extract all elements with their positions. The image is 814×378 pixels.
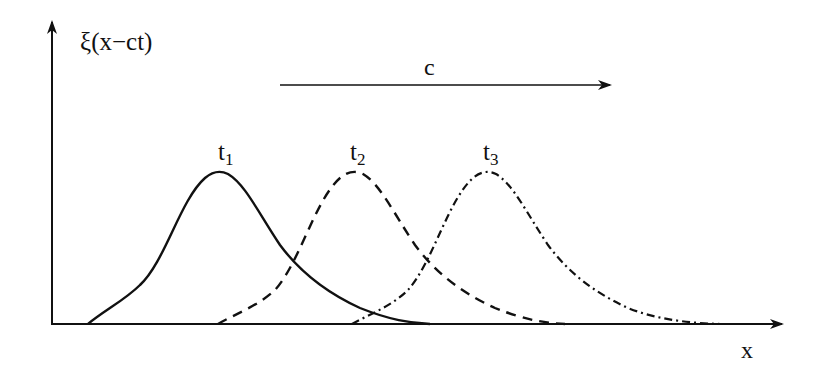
curve-label-t2: t2: [350, 138, 365, 169]
velocity-label: c: [424, 54, 435, 80]
y-axis-label: ξ(x−ct): [80, 28, 152, 56]
x-axis-label: x: [741, 337, 753, 363]
curve-label-t1: t1: [218, 138, 233, 169]
wave-diagram: ξ(x−ct) c x t1 t2 t3: [0, 0, 814, 378]
curve-label-t3: t3: [483, 138, 498, 169]
curve-t2: [218, 172, 565, 324]
curve-t3: [352, 172, 720, 324]
curve-t1: [88, 172, 430, 324]
